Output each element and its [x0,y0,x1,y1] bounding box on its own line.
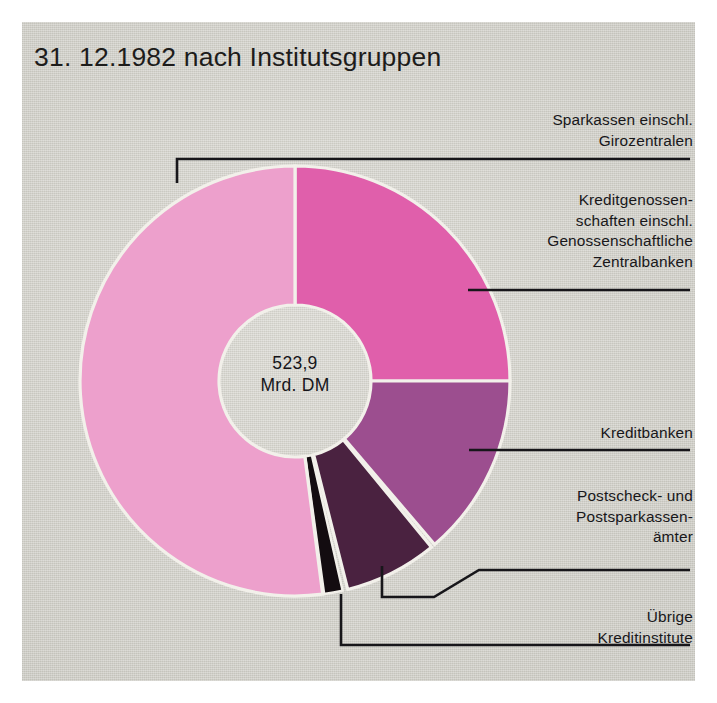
legend-label-kreditbanken: Kreditbanken [393,423,693,444]
donut-chart [0,0,717,703]
leader-line-postscheck [382,566,690,597]
legend-label-sparkassen: Sparkassen einschl. Girozentralen [393,110,693,151]
legend-label-postscheck: Postscheck- und Postsparkassen- ämter [393,486,693,548]
center-label: 523,9 Mrd. DM [233,352,357,396]
center-value: 523,9 [233,352,357,374]
legend-label-kreditgenossenschaften: Kreditgenossen- schaften einschl. Genoss… [393,190,693,272]
page-root: 31. 12.1982 nach Institutsgruppen 5 [0,0,717,703]
legend-label-uebrige-kreditinstitute: Übrige Kreditinstitute [393,607,693,648]
center-unit: Mrd. DM [233,374,357,396]
